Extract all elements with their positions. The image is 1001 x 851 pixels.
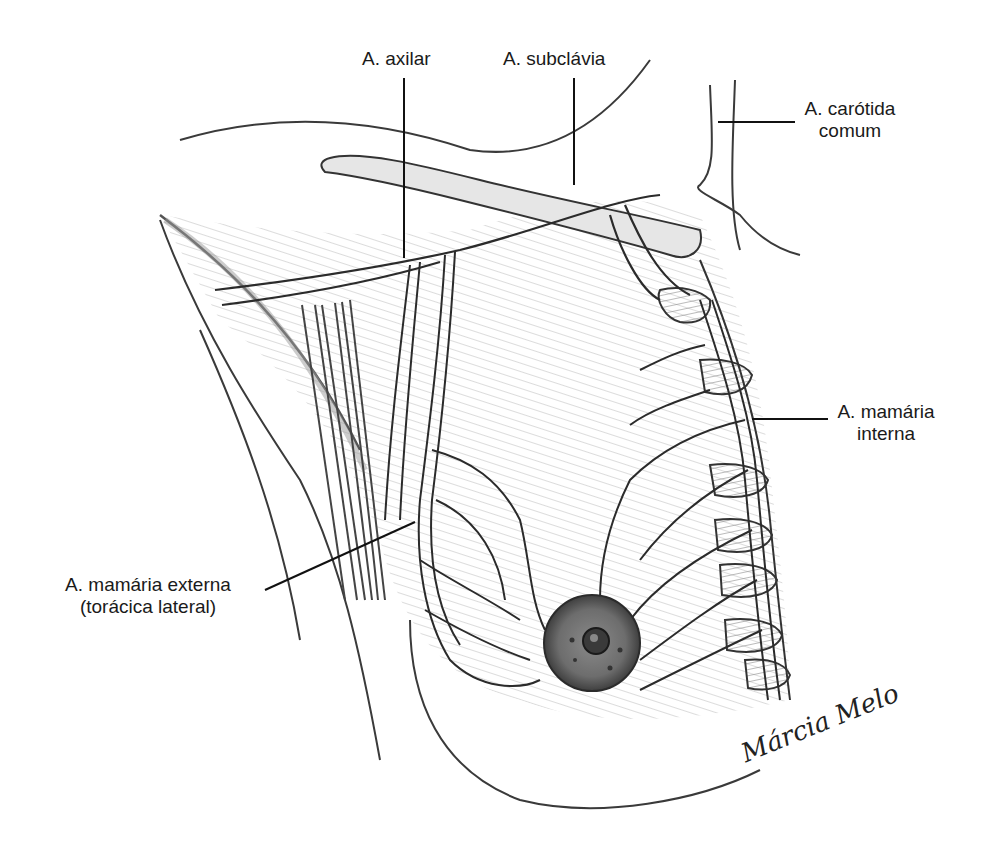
label-axillary-artery: A. axilar bbox=[362, 48, 431, 70]
label-lateral-thoracic-line2: (torácica lateral) bbox=[48, 596, 248, 618]
label-internal-thoracic-artery: A. mamária interna bbox=[836, 401, 936, 445]
label-common-carotid-artery: A. carótida comum bbox=[800, 98, 900, 142]
nipple-areola bbox=[544, 595, 640, 691]
label-common-carotid-line2: comum bbox=[800, 120, 900, 142]
label-lateral-thoracic-line1: A. mamária externa bbox=[48, 574, 248, 596]
label-lateral-thoracic-artery: A. mamária externa (torácica lateral) bbox=[48, 574, 248, 618]
pectoral-muscle bbox=[160, 201, 790, 719]
label-internal-thoracic-line1: A. mamária bbox=[836, 401, 936, 423]
label-subclavian-artery: A. subclávia bbox=[503, 48, 605, 70]
label-internal-thoracic-line2: interna bbox=[836, 423, 936, 445]
label-common-carotid-line1: A. carótida bbox=[800, 98, 900, 120]
